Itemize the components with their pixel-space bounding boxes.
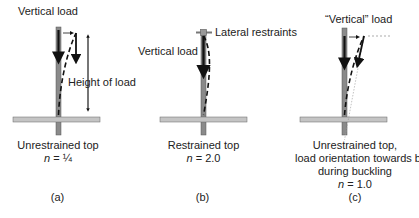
vertical-load-label-a: Vertical load bbox=[18, 5, 78, 18]
caption-b: Restrained top n = 2.0 bbox=[160, 139, 247, 165]
vertical-load-label-b: Vertical load bbox=[138, 45, 198, 58]
caption-a: Unrestrained top n = ¼ bbox=[15, 139, 101, 165]
caption-c-line1: Unrestrained top, bbox=[295, 139, 415, 152]
caption-a-line1: Unrestrained top bbox=[15, 139, 101, 152]
lateral-restraints-label: Lateral restraints bbox=[215, 26, 297, 39]
panel-tag-c: (c) bbox=[295, 191, 415, 204]
beam bbox=[300, 117, 387, 122]
beam bbox=[13, 117, 100, 122]
panel-c-figure bbox=[300, 28, 392, 140]
caption-c: Unrestrained top, load orientation towar… bbox=[295, 139, 415, 204]
caption-b-n: n = 2.0 bbox=[160, 152, 247, 165]
caption-a-n: n = ¼ bbox=[15, 152, 101, 165]
caption-c-n: n = 1.0 bbox=[295, 178, 415, 191]
panel-tag-a: (a) bbox=[45, 191, 70, 204]
vertical-load-label-c: “Vertical” load bbox=[325, 13, 392, 26]
caption-b-line1: Restrained top bbox=[160, 139, 247, 152]
caption-c-line2: load orientation towards base bbox=[295, 152, 415, 165]
caption-c-line3: during buckling bbox=[295, 165, 415, 178]
height-of-load-label: Height of load bbox=[68, 76, 136, 89]
beam bbox=[160, 117, 247, 122]
panel-tag-b: (b) bbox=[190, 191, 215, 204]
